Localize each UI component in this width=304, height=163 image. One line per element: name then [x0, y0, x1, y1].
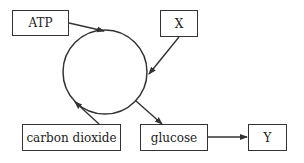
- node-glucose: glucose: [140, 124, 208, 151]
- node-x-label: X: [175, 17, 184, 31]
- node-atp-label: ATP: [28, 16, 52, 30]
- arrow-cycle-to-glucose: [136, 101, 162, 124]
- arrow-atp-to-cycle: [69, 23, 104, 31]
- node-x: X: [160, 10, 198, 37]
- cycle-circle: [63, 30, 147, 114]
- node-atp: ATP: [12, 10, 69, 36]
- node-y: Y: [248, 124, 287, 151]
- node-carbon-dioxide: carbon dioxide: [22, 124, 121, 151]
- arrow-x-to-cycle: [149, 37, 179, 74]
- node-y-label: Y: [264, 131, 272, 145]
- node-carbon-dioxide-label: carbon dioxide: [26, 131, 116, 145]
- node-glucose-label: glucose: [151, 131, 197, 145]
